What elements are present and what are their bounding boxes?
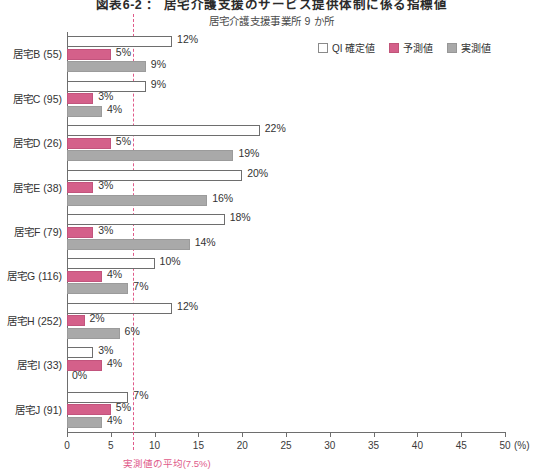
x-axis-tick [155, 432, 156, 437]
bar-group: 20%3%16% [67, 170, 505, 206]
bar-value-label: 7% [128, 280, 148, 292]
x-axis-tick-label: 45 [456, 440, 467, 451]
bar-予測値[interactable] [67, 49, 111, 60]
bar-value-label: 4% [102, 103, 122, 115]
category-label-name: 居宅H [7, 313, 35, 328]
category-label-count: (116) [38, 270, 62, 282]
bar-value-label: 9% [146, 58, 166, 70]
bar-value-label: 22% [260, 122, 286, 134]
category-label: 居宅J(91) [0, 402, 62, 417]
category-label-count: (95) [43, 93, 62, 105]
x-axis-tick [461, 432, 462, 437]
bar-value-label: 6% [120, 325, 140, 337]
bar-value-label: 4% [102, 268, 122, 280]
category-label-count: (26) [43, 137, 62, 149]
x-axis-tick-label: 30 [324, 440, 335, 451]
bar-QI 確定値[interactable] [67, 125, 260, 136]
category-label-count: (91) [43, 404, 62, 416]
x-axis-tick [286, 432, 287, 437]
bar-value-label: 4% [102, 357, 122, 369]
bar-group: 22%5%19% [67, 125, 505, 161]
bar-value-label: 14% [190, 236, 216, 248]
bar-実測値[interactable] [67, 61, 146, 72]
bar-QI 確定値[interactable] [67, 303, 172, 314]
x-axis-tick [417, 432, 418, 437]
chart-subtitle: 居宅介護支援事業所 9 か所 [0, 13, 543, 28]
bar-予測値[interactable] [67, 182, 93, 193]
x-axis-tick [374, 432, 375, 437]
x-axis-tick [505, 432, 506, 437]
x-axis-tick [242, 432, 243, 437]
bar-実測値[interactable] [67, 328, 120, 339]
bar-group: 9%3%4% [67, 81, 505, 117]
bar-予測値[interactable] [67, 138, 111, 149]
category-label-name: 居宅B [13, 46, 40, 61]
category-label-name: 居宅C [13, 91, 41, 106]
bar-value-label: 18% [225, 211, 251, 223]
x-axis-tick-label: 15 [193, 440, 204, 451]
category-label: 居宅I(33) [0, 357, 62, 372]
x-axis-tick-label: 20 [237, 440, 248, 451]
category-label-name: 居宅E [13, 180, 40, 195]
x-axis-tick [111, 432, 112, 437]
bar-実測値[interactable] [67, 195, 207, 206]
bar-予測値[interactable] [67, 315, 85, 326]
bar-group: 7%5%4% [67, 392, 505, 428]
bar-実測値[interactable] [67, 239, 190, 250]
x-axis-unit-label: (%) [514, 440, 530, 451]
bar-value-label: 2% [85, 312, 105, 324]
bar-value-label: 3% [93, 224, 113, 236]
bar-予測値[interactable] [67, 271, 102, 282]
bar-value-label: 5% [111, 46, 131, 58]
bar-予測値[interactable] [67, 227, 93, 238]
bar-value-label: 3% [93, 179, 113, 191]
category-label: 居宅C(95) [0, 91, 62, 106]
x-axis-tick-label: 10 [149, 440, 160, 451]
bar-QI 確定値[interactable] [67, 214, 225, 225]
bar-予測値[interactable] [67, 93, 93, 104]
x-axis-tick-label: 35 [368, 440, 379, 451]
x-axis-tick [198, 432, 199, 437]
x-axis-tick-label: 5 [108, 440, 114, 451]
bar-value-label: 12% [172, 33, 198, 45]
bar-group: 18%3%14% [67, 214, 505, 250]
category-label-count: (79) [43, 226, 62, 238]
bar-value-label: 10% [155, 255, 181, 267]
bar-value-label: 5% [111, 401, 131, 413]
category-label-name: 居宅J [15, 402, 40, 417]
x-axis-tick [67, 432, 68, 437]
bar-実測値[interactable] [67, 150, 233, 161]
average-reference-label: 実測値の平均(7.5%) [123, 456, 211, 470]
chart-container: 図表6-2 ： 居宅介護支援のサービス提供体制に係る指標値 居宅介護支援事業所 … [0, 0, 543, 472]
category-label: 居宅D(26) [0, 135, 62, 150]
chart-title: 図表6-2 ： 居宅介護支援のサービス提供体制に係る指標値 [0, 0, 543, 13]
x-axis-tick [330, 432, 331, 437]
bar-group: 12%2%6% [67, 303, 505, 339]
category-label-count: (33) [43, 359, 62, 371]
bar-value-label: 5% [111, 135, 131, 147]
bar-value-label: 19% [233, 147, 259, 159]
category-label: 居宅H(252) [0, 313, 62, 328]
bar-value-label: 3% [93, 90, 113, 102]
bar-group: 12%5%9% [67, 36, 505, 72]
category-label-name: 居宅D [13, 135, 41, 150]
bar-実測値[interactable] [67, 106, 102, 117]
x-axis-tick-label: 40 [412, 440, 423, 451]
x-axis-tick-label: 25 [280, 440, 291, 451]
bar-value-label: 16% [207, 192, 233, 204]
category-label-name: 居宅I [17, 357, 40, 372]
bar-実測値[interactable] [67, 417, 102, 428]
bar-value-label: 20% [242, 167, 268, 179]
bar-value-label: 3% [93, 344, 113, 356]
category-label-name: 居宅G [7, 268, 35, 283]
category-label-count: (38) [43, 182, 62, 194]
category-label-name: 居宅F [14, 224, 40, 239]
category-label: 居宅B(55) [0, 46, 62, 61]
category-label: 居宅F(79) [0, 224, 62, 239]
plot-area: 05101520253035404550(%)実測値の平均(7.5%)12%5%… [67, 32, 505, 432]
bar-value-label: 4% [102, 414, 122, 426]
bar-QI 確定値[interactable] [67, 347, 93, 358]
bar-実測値[interactable] [67, 283, 128, 294]
category-label-count: (252) [37, 315, 62, 327]
category-label: 居宅E(38) [0, 180, 62, 195]
